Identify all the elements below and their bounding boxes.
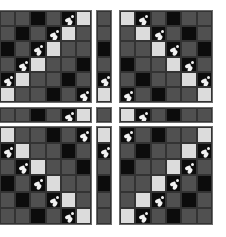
leaf-pattern-icon (56, 30, 59, 33)
center-cell (97, 108, 111, 122)
grid-cell (120, 41, 135, 56)
grid-cell (0, 87, 15, 102)
panel-top-left (0, 11, 91, 102)
grid-cell (120, 57, 135, 72)
grid-cell (135, 26, 150, 41)
grid-cell (166, 108, 181, 122)
grid-cell (151, 175, 166, 191)
grid-cell (76, 208, 91, 224)
grid-cell (15, 57, 30, 72)
grid-cell (197, 192, 212, 208)
grid-cell (46, 72, 61, 87)
leaf-pattern-icon (71, 15, 74, 18)
panel-bottom-right (120, 127, 212, 224)
grid-cell (46, 87, 61, 102)
grid-cell (46, 192, 61, 208)
grid-cell (151, 41, 166, 56)
grid-cell (197, 57, 212, 72)
leaf-pattern-icon (191, 163, 194, 166)
grid-cell (181, 175, 196, 191)
leaf-pattern-icon (10, 76, 13, 79)
grid-cell (166, 208, 181, 224)
grid-cell (120, 159, 135, 175)
grid-cell (135, 175, 150, 191)
grid-cell (166, 72, 181, 87)
leaf-pattern-icon (36, 50, 42, 57)
grid-cell (46, 159, 61, 175)
grid-cell (135, 87, 150, 102)
grid-cell (120, 192, 135, 208)
strip-horizontal-right (120, 108, 212, 122)
grid-cell (197, 108, 212, 122)
grid-cell (76, 72, 91, 87)
grid-cell (15, 192, 30, 208)
grid-cell (15, 208, 30, 224)
leaf-pattern-icon (203, 152, 209, 159)
grid-cell (197, 26, 212, 41)
grid-cell (97, 26, 111, 41)
grid-cell (61, 175, 76, 191)
leaf-pattern-icon (71, 212, 74, 215)
grid-cell (46, 11, 61, 26)
grid-cell (61, 11, 76, 26)
grid-cell (61, 26, 76, 41)
grid-cell (120, 108, 135, 122)
grid-cell (46, 208, 61, 224)
leaf-pattern-icon (187, 65, 193, 72)
grid-cell (97, 57, 111, 72)
grid-cell (30, 208, 45, 224)
grid-cell (120, 87, 135, 102)
grid-cell (135, 108, 150, 122)
grid-cell (61, 57, 76, 72)
grid-cell (181, 108, 196, 122)
grid-cell (76, 159, 91, 175)
leaf-pattern-icon (161, 30, 164, 33)
grid-cell (97, 108, 111, 122)
grid-cell (0, 143, 15, 159)
grid-cell (166, 127, 181, 143)
grid-cell (15, 26, 30, 41)
grid-cell (30, 175, 45, 191)
grid-cell (76, 41, 91, 56)
grid-cell (197, 143, 212, 159)
leaf-pattern-icon (103, 80, 109, 87)
grid-cell (166, 87, 181, 102)
grid-cell (151, 127, 166, 143)
grid-cell (135, 41, 150, 56)
grid-cell (0, 175, 15, 191)
leaf-pattern-icon (107, 76, 110, 79)
grid-cell (0, 41, 15, 56)
grid-cell (151, 87, 166, 102)
grid-cell (120, 127, 135, 143)
grid-cell (0, 11, 15, 26)
leaf-pattern-icon (172, 184, 178, 191)
leaf-pattern-icon (25, 61, 28, 64)
leaf-pattern-icon (86, 91, 89, 94)
grid-cell (30, 87, 45, 102)
grid-cell (181, 143, 196, 159)
grid-cell (15, 175, 30, 191)
grid-cell (135, 208, 150, 224)
grid-cell (97, 87, 111, 102)
panel-bottom-left (0, 127, 91, 224)
grid-cell (0, 108, 15, 122)
leaf-pattern-icon (56, 196, 59, 199)
grid-cell (15, 108, 30, 122)
grid-cell (46, 175, 61, 191)
grid-cell (46, 108, 61, 122)
grid-cell (76, 57, 91, 72)
grid-cell (30, 108, 45, 122)
grid-cell (46, 57, 61, 72)
grid-cell (181, 72, 196, 87)
grid-cell (151, 143, 166, 159)
leaf-pattern-icon (107, 147, 110, 150)
grid-cell (30, 11, 45, 26)
grid-cell (151, 11, 166, 26)
grid-cell (197, 208, 212, 224)
grid-cell (97, 41, 111, 56)
leaf-pattern-icon (126, 95, 132, 102)
grid-cell (151, 26, 166, 41)
strip-vertical-bottom (97, 127, 111, 224)
panel-top-right (120, 11, 212, 102)
grid-cell (76, 108, 91, 122)
